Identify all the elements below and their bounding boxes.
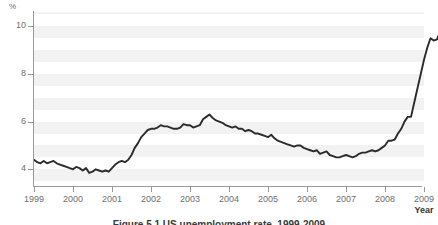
y-axis-line bbox=[33, 11, 34, 187]
x-axis-tick-mark bbox=[229, 187, 230, 192]
x-axis-tick-mark bbox=[346, 187, 347, 192]
y-axis-tick-label-text: 6 bbox=[2, 117, 26, 126]
y-axis-tick-label: 8 bbox=[0, 69, 26, 78]
x-axis-tick-mark bbox=[151, 187, 152, 192]
figure-caption: Figure 5.1 US unemployment rate, 1999-20… bbox=[0, 219, 438, 225]
figure-container: % 46810 19992000200120022003200420052006… bbox=[0, 0, 438, 225]
y-axis-tick-label-text: 10 bbox=[2, 21, 26, 30]
x-axis-tick-label: 2002 bbox=[131, 194, 171, 204]
x-axis-tick-mark bbox=[307, 187, 308, 192]
x-axis-tick-mark bbox=[268, 187, 269, 192]
x-axis-tick-label: 2003 bbox=[170, 194, 210, 204]
x-axis-tick-label: 2009 bbox=[404, 194, 438, 204]
y-axis-tick-label-text: 8 bbox=[2, 69, 26, 78]
y-axis-tick-label-text: 4 bbox=[2, 164, 26, 173]
y-axis-tick-mark bbox=[28, 74, 34, 75]
x-axis-tick-label: 2004 bbox=[209, 194, 249, 204]
x-axis-tick-label: 2005 bbox=[248, 194, 288, 204]
y-axis-unit-label: % bbox=[9, 2, 16, 12]
y-axis-tick-label: 6 bbox=[0, 117, 26, 126]
x-axis-tick-mark bbox=[73, 187, 74, 192]
line-series-us-unemployment-rate bbox=[34, 24, 438, 173]
y-axis-tick-label: 10 bbox=[0, 21, 26, 30]
series-svg bbox=[34, 12, 424, 186]
x-axis-tick-mark bbox=[190, 187, 191, 192]
x-axis-tick-label: 2008 bbox=[365, 194, 405, 204]
x-axis-tick-label: 2001 bbox=[92, 194, 132, 204]
x-axis-line bbox=[33, 186, 422, 187]
x-axis-tick-mark bbox=[385, 187, 386, 192]
y-axis-tick-mark bbox=[28, 26, 34, 27]
y-axis-tick-label: 4 bbox=[0, 164, 26, 173]
x-axis-tick-mark bbox=[424, 187, 425, 192]
x-axis-tick-label: 1999 bbox=[14, 194, 54, 204]
y-axis-tick-mark bbox=[28, 122, 34, 123]
plot-area bbox=[34, 12, 424, 186]
x-axis-tick-label: 2007 bbox=[326, 194, 366, 204]
x-axis-tick-label: 2000 bbox=[53, 194, 93, 204]
x-axis-title: Year bbox=[400, 205, 438, 215]
y-axis-tick-mark bbox=[28, 169, 34, 170]
x-axis-tick-mark bbox=[34, 187, 35, 192]
x-axis-tick-label: 2006 bbox=[287, 194, 327, 204]
x-axis-tick-mark bbox=[112, 187, 113, 192]
